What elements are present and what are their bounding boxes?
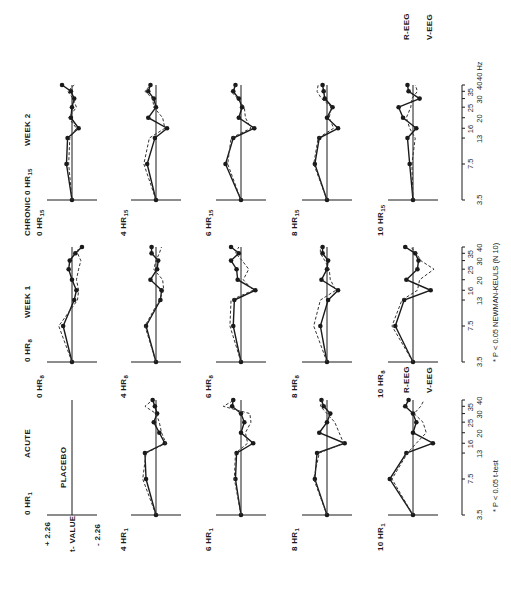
panel-acute-8hr: 8 HR1 xyxy=(290,398,352,551)
data-point xyxy=(70,105,75,110)
data-point xyxy=(235,277,240,282)
data-point xyxy=(70,277,75,282)
freq-tick-label: 13 xyxy=(475,297,484,305)
data-point xyxy=(233,477,238,482)
data-point xyxy=(387,477,392,482)
freq-tick-label: 30 xyxy=(475,95,484,103)
freq-tick-label: 40 xyxy=(475,82,484,90)
panel-label: 6 HR1 xyxy=(204,528,214,551)
r-eeg-line xyxy=(399,85,420,200)
label-0hr-week2: 0 HR15 xyxy=(23,168,33,195)
data-point xyxy=(414,126,419,131)
panel-label: 10 HR1 xyxy=(376,523,386,551)
data-point xyxy=(403,245,408,250)
frequency-axes: 3.5132030407.51625353.5132030407.5162535… xyxy=(462,61,484,520)
eeg-t-value-chart: 0 HR1 ACUTE 0 HR8 WEEK 1 CHRONIC 0 HR15 … xyxy=(0,0,511,608)
freq-axis-week2: 3.5132030407.516253540 Hz xyxy=(462,61,484,205)
panel-week1-4hr: 4 HR8 xyxy=(119,245,181,398)
r-eeg-line xyxy=(320,247,338,362)
data-point xyxy=(229,245,234,250)
data-point xyxy=(240,105,245,110)
panel-label: 10 HR15 xyxy=(376,204,386,236)
data-point xyxy=(73,251,78,256)
panel-week2-4hr: 4 HR15 xyxy=(119,83,181,236)
data-point xyxy=(251,441,256,446)
panel-label: 8 HR1 xyxy=(290,528,300,551)
freq-unit-label: 40 Hz xyxy=(475,61,484,81)
footnote-acute: * P < 0.05 t-test xyxy=(491,459,500,512)
freq-tick-label: 7.5 xyxy=(466,159,475,169)
freq-tick-label: 13 xyxy=(475,450,484,458)
freq-tick-label: 16 xyxy=(466,440,475,448)
data-point xyxy=(404,277,409,282)
data-point xyxy=(326,258,331,263)
data-point xyxy=(401,115,406,120)
data-point xyxy=(65,136,70,141)
freq-tick-label: 20 xyxy=(475,429,484,437)
data-point xyxy=(403,404,408,409)
freq-tick-label: 25 xyxy=(466,104,475,112)
data-point xyxy=(325,420,330,425)
legend-r-eeg: R-EEG xyxy=(402,366,411,393)
freq-tick-label: 25 xyxy=(466,266,475,274)
panel-label: 4 HR1 xyxy=(119,528,129,551)
data-point xyxy=(242,420,247,425)
panel-week1-0hr: 0 HR8 xyxy=(35,245,97,398)
legend-v-eeg: V-EEG xyxy=(425,367,434,393)
data-point xyxy=(320,83,325,88)
freq-tick-label: 7.5 xyxy=(466,321,475,331)
placebo-label: PLACEBO xyxy=(59,447,68,488)
data-point xyxy=(146,115,151,120)
panel-label: 8 HR8 xyxy=(290,375,300,398)
figure-canvas: 0 HR1 ACUTE 0 HR8 WEEK 1 CHRONIC 0 HR15 … xyxy=(0,0,511,608)
data-point xyxy=(319,277,324,282)
r-eeg-line xyxy=(63,247,82,362)
data-point xyxy=(146,89,151,94)
panel-week2-6hr: 6 HR15 xyxy=(204,83,266,236)
data-point xyxy=(326,298,331,303)
panel-week2-10hr: 10 HR15 xyxy=(376,83,438,236)
freq-tick-label: 40 xyxy=(475,397,484,405)
v-eeg-line xyxy=(145,247,164,362)
data-point xyxy=(416,258,421,263)
r-eeg-line xyxy=(145,400,165,515)
data-point xyxy=(64,162,69,167)
data-point xyxy=(393,324,398,329)
data-point xyxy=(320,245,325,250)
data-point xyxy=(405,83,410,88)
freq-tick-label: 30 xyxy=(475,410,484,418)
data-point xyxy=(407,162,412,167)
freq-tick-label: 20 xyxy=(475,276,484,284)
data-point xyxy=(153,136,158,141)
t-value-top-label: + 2.26 xyxy=(43,521,52,546)
panel-label: 4 HR8 xyxy=(119,375,129,398)
data-point xyxy=(223,162,228,167)
v-eeg-line xyxy=(314,247,336,362)
panel-acute-6hr: 6 HR1 xyxy=(204,398,266,551)
data-point xyxy=(153,404,158,409)
data-point xyxy=(72,298,77,303)
data-point xyxy=(317,430,322,435)
data-point xyxy=(165,126,170,131)
panel-week2-8hr: 8 HR15 xyxy=(290,83,352,236)
data-point xyxy=(148,277,153,282)
freq-tick-label: 7.5 xyxy=(466,474,475,484)
data-point xyxy=(230,404,235,409)
panel-label: 6 HR15 xyxy=(204,209,214,236)
panel-label: 8 HR15 xyxy=(290,209,300,236)
freq-tick-label: 40 xyxy=(475,244,484,252)
data-point xyxy=(318,324,323,329)
legend-v-eeg-week2: V-EEG xyxy=(425,14,434,40)
data-point xyxy=(151,420,156,425)
data-point xyxy=(144,477,149,482)
panel-label: 0 HR15 xyxy=(35,209,45,236)
data-point xyxy=(414,420,419,425)
label-0hr-acute: 0 HR1 xyxy=(23,492,33,515)
freq-axis-acute: 3.5132030407.5162535 xyxy=(462,397,484,520)
v-eeg-line xyxy=(223,400,251,515)
data-point xyxy=(252,126,257,131)
panel-label: 6 HR8 xyxy=(204,375,214,398)
data-point xyxy=(319,398,324,403)
panel-week2-0hr: 0 HR15 xyxy=(35,83,97,236)
panel-label: 10 HR8 xyxy=(376,370,386,398)
